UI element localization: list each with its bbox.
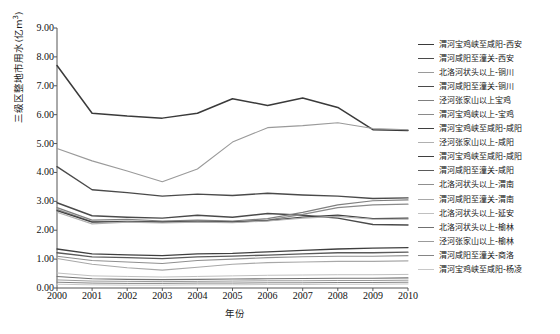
legend-line-swatch — [418, 58, 434, 59]
x-tick-label: 2008 — [318, 290, 358, 301]
legend-item[interactable]: 渭河宝鸡峡至咸阳-西安 — [418, 37, 560, 51]
legend-item[interactable]: 渭河咸阳至潼关-西安 — [418, 51, 560, 65]
x-tick-label: 2004 — [177, 290, 217, 301]
line-chart: 三级区整地市用水(亿m3) 0.001.002.003.004.005.006.… — [0, 0, 560, 334]
legend-label: 渭河咸阳至潼关-商洛 — [439, 251, 514, 260]
data-lines — [57, 66, 408, 286]
legend-label: 渭河宝鸡峡至咸阳-咸阳 — [439, 124, 522, 133]
legend-label: 渭河宝鸡峡至咸阳-咸阳 — [439, 152, 522, 161]
data-line — [57, 259, 408, 271]
x-tick-label: 2007 — [283, 290, 323, 301]
legend-label: 渭河咸阳至潼关-铜川 — [439, 82, 514, 91]
data-line — [57, 280, 408, 282]
legend-item[interactable]: 渭河宝鸡峡至咸阳-杨凌 — [418, 263, 560, 277]
data-line — [57, 167, 408, 199]
data-line — [57, 284, 408, 285]
legend-item[interactable]: 渭河咸阳至潼关-咸阳 — [418, 164, 560, 178]
legend-item[interactable]: 渭河宝鸡峡以上-宝鸡 — [418, 107, 560, 121]
legend-line-swatch — [418, 199, 434, 200]
legend-label: 北洛河状头以上-延安 — [439, 209, 514, 218]
data-line — [57, 248, 408, 256]
legend-item[interactable]: 泾河张家山以上-咸阳 — [418, 136, 560, 150]
x-tick-label: 2010 — [388, 290, 428, 301]
legend-line-swatch — [418, 170, 434, 171]
legend-label: 泾河张家山以上-榆林 — [439, 237, 514, 246]
legend-label: 渭河咸阳至潼关-咸阳 — [439, 166, 514, 175]
chart-legend: 渭河宝鸡峡至咸阳-西安渭河咸阳至潼关-西安北洛河状头以上-铜川渭河咸阳至潼关-铜… — [418, 37, 560, 277]
legend-item[interactable]: 渭河宝鸡峡至咸阳-咸阳 — [418, 150, 560, 164]
x-axis-title: 年份 — [55, 306, 415, 320]
data-line — [57, 204, 408, 221]
legend-item[interactable]: 渭河咸阳至潼关-铜川 — [418, 79, 560, 93]
legend-item[interactable]: 北洛河状头以上-渭南 — [418, 178, 560, 192]
data-line — [57, 282, 408, 283]
legend-line-swatch — [418, 86, 434, 87]
x-tick-label: 2005 — [213, 290, 253, 301]
legend-item[interactable]: 泾河张家山以上-榆林 — [418, 234, 560, 248]
data-line — [57, 66, 408, 131]
data-line — [57, 273, 408, 277]
legend-label: 泾河张家山以上宝鸡 — [439, 96, 511, 105]
legend-label: 渭河宝鸡峡至咸阳-西安 — [439, 40, 522, 49]
x-tick-label: 2000 — [37, 290, 77, 301]
legend-label: 北洛河状头以上-榆林 — [439, 223, 514, 232]
legend-line-swatch — [418, 100, 434, 101]
legend-item[interactable]: 渭河咸阳至潼关-商洛 — [418, 248, 560, 262]
legend-item[interactable]: 北洛河状头以上-延安 — [418, 206, 560, 220]
legend-item[interactable]: 渭河宝鸡峡至咸阳-咸阳 — [418, 122, 560, 136]
data-line — [57, 123, 408, 182]
legend-line-swatch — [418, 156, 434, 157]
legend-line-swatch — [418, 184, 434, 185]
legend-item[interactable]: 北洛河状头以上-榆林 — [418, 220, 560, 234]
legend-line-swatch — [418, 255, 434, 256]
legend-line-swatch — [418, 269, 434, 270]
legend-label: 渭河宝鸡峡至咸阳-杨凌 — [439, 265, 522, 274]
x-tick-label: 2003 — [142, 290, 182, 301]
legend-item[interactable]: 泾河张家山以上宝鸡 — [418, 93, 560, 107]
data-line — [57, 276, 408, 279]
x-tick-label: 2002 — [107, 290, 147, 301]
legend-label: 泾河张家山以上-咸阳 — [439, 138, 514, 147]
legend-label: 渭河咸阳至潼关-渭南 — [439, 195, 514, 204]
legend-line-swatch — [418, 72, 434, 73]
legend-line-swatch — [418, 128, 434, 129]
legend-item[interactable]: 渭河咸阳至潼关-渭南 — [418, 192, 560, 206]
legend-line-swatch — [418, 227, 434, 228]
legend-line-swatch — [418, 44, 434, 45]
legend-item[interactable]: 北洛河状头以上-铜川 — [418, 65, 560, 79]
legend-label: 北洛河状头以上-铜川 — [439, 68, 514, 77]
legend-line-swatch — [418, 213, 434, 214]
legend-label: 渭河宝鸡峡以上-宝鸡 — [439, 110, 514, 119]
x-tick-label: 2001 — [72, 290, 112, 301]
legend-label: 北洛河状头以上-渭南 — [439, 180, 514, 189]
legend-line-swatch — [418, 142, 434, 143]
legend-line-swatch — [418, 114, 434, 115]
x-tick-label: 2006 — [248, 290, 288, 301]
legend-label: 渭河咸阳至潼关-西安 — [439, 54, 514, 63]
legend-line-swatch — [418, 241, 434, 242]
x-tick-label: 2009 — [353, 290, 393, 301]
